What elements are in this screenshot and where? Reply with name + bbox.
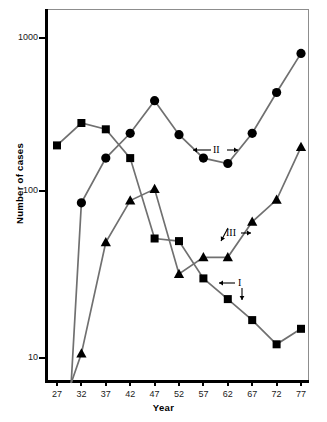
marker-I-10 — [297, 325, 305, 333]
marker-II-2 — [126, 129, 135, 138]
marker-I-9 — [273, 340, 281, 348]
series-II — [71, 49, 305, 383]
marker-II-6 — [223, 159, 232, 168]
marker-II-9 — [296, 49, 305, 58]
series-III — [71, 142, 306, 383]
annotation-arrow-I-left — [219, 281, 235, 286]
marker-II-0 — [77, 198, 86, 207]
marker-II-3 — [150, 96, 159, 105]
marker-I-6 — [199, 274, 207, 282]
marker-II-7 — [248, 129, 257, 138]
marker-III-8 — [271, 194, 281, 203]
figure-caption — [8, 414, 327, 422]
marker-I-7 — [224, 295, 232, 303]
marker-III-0 — [76, 348, 86, 357]
marker-I-5 — [175, 237, 183, 245]
annotation-label-II: II — [213, 145, 220, 155]
marker-II-1 — [101, 154, 110, 163]
marker-I-0 — [53, 141, 61, 149]
marker-III-9 — [296, 142, 306, 151]
marker-III-1 — [101, 237, 111, 246]
marker-III-4 — [174, 269, 184, 278]
marker-I-4 — [151, 235, 159, 243]
marker-I-8 — [248, 316, 256, 324]
annotation-label-III: III — [226, 228, 236, 238]
data-layer — [0, 0, 327, 422]
marker-II-5 — [199, 154, 208, 163]
annotation-label-I: I — [238, 278, 241, 288]
marker-II-4 — [174, 130, 183, 139]
figure-log-line-chart: 1000 100 10 2732374247525762677277 Numbe… — [0, 0, 327, 422]
marker-I-3 — [126, 154, 134, 162]
marker-I-1 — [77, 119, 85, 127]
marker-I-2 — [102, 125, 110, 133]
marker-II-8 — [272, 88, 281, 97]
marker-III-3 — [149, 184, 159, 193]
annotation-arrow-I-down — [240, 288, 245, 300]
